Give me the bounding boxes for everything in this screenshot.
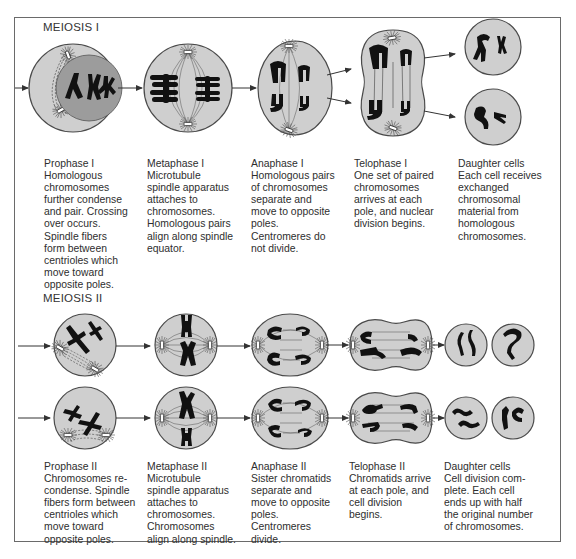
anaphase2-cell-a	[251, 314, 329, 376]
desc-line: Spindle fibers	[44, 231, 148, 243]
desc-line: Chromatids arrive	[349, 473, 453, 485]
desc-line: attaches to	[147, 497, 251, 509]
stage-title: Metaphase I	[147, 158, 251, 170]
anaphase1-cell	[258, 39, 332, 140]
desc-line: Centromeres do	[251, 231, 355, 243]
desc-line: homologous	[458, 218, 562, 230]
desc-line: chromosomes.	[458, 231, 562, 243]
desc-line: equator.	[147, 243, 251, 255]
metaphase1-cell	[144, 44, 232, 132]
telophase2-description: Telophase II Chromatids arrive at each p…	[349, 461, 453, 521]
metaphase2-cell-a	[155, 314, 217, 376]
prophase2-cell-a	[49, 314, 116, 380]
desc-line: chromosomes.	[147, 206, 251, 218]
desc-line: move to opposite	[251, 497, 355, 509]
desc-line: Homologous	[44, 170, 148, 182]
desc-line: Homologous pairs	[251, 170, 355, 182]
desc-line: Chromosomes re-	[44, 473, 148, 485]
metaphase2-description: Metaphase II Microtubule spindle apparat…	[147, 461, 251, 546]
desc-line: Microtubule	[147, 170, 251, 182]
desc-line: spindle apparatus	[147, 182, 251, 194]
desc-line: condense. Spindle	[44, 485, 148, 497]
daughter-cell-1a	[465, 19, 521, 75]
telophase1-cell	[361, 30, 425, 138]
desc-line: and pair. Crossing	[44, 206, 148, 218]
desc-line: fibers form between	[44, 497, 148, 509]
desc-line: arrives at each	[354, 194, 458, 206]
desc-line: chromosomes	[44, 182, 148, 194]
desc-line: pole, and nuclear	[354, 206, 458, 218]
daughter-cells1-description: Daughter cells Each cell receives exchan…	[458, 158, 562, 243]
desc-line: of chromosomes.	[444, 521, 548, 533]
desc-line: separate and	[251, 194, 355, 206]
desc-line: spindle apparatus	[147, 485, 251, 497]
arrow-icon	[424, 54, 455, 58]
desc-line: align along spindle	[147, 231, 251, 243]
desc-line: align along spindle.	[147, 534, 251, 546]
desc-line: plete. Each cell	[444, 485, 548, 497]
desc-line: chromosomes	[354, 182, 458, 194]
desc-line: opposite poles.	[44, 279, 148, 291]
desc-line: of chromosomes	[251, 182, 355, 194]
desc-line: material from	[458, 206, 562, 218]
stage-title: Daughter cells	[444, 461, 548, 473]
desc-line: begins.	[349, 509, 453, 521]
desc-line: further condense	[44, 194, 148, 206]
desc-line: ends up with half	[444, 497, 548, 509]
desc-line: Microtubule	[147, 473, 251, 485]
prophase1-cell	[29, 44, 122, 132]
stage-title: Telophase II	[349, 461, 453, 473]
metaphase2-cell-b	[155, 387, 217, 449]
desc-line: One set of paired	[354, 170, 458, 182]
arrow-icon	[327, 69, 351, 75]
stage-title: Prophase II	[44, 461, 148, 473]
anaphase2-description: Anaphase II Sister chromatids separate a…	[251, 461, 355, 546]
desc-line: poles.	[251, 509, 355, 521]
desc-line: Sister chromatids	[251, 473, 355, 485]
desc-line: not divide.	[251, 243, 355, 255]
desc-line: centrioles which	[44, 255, 148, 267]
prophase2-cell-b	[54, 387, 116, 449]
desc-line: Each cell receives	[458, 170, 562, 182]
daughter-cell-2b	[492, 324, 534, 366]
desc-line: over occurs.	[44, 218, 148, 230]
desc-line: opposite poles.	[44, 534, 148, 546]
desc-line: the original number	[444, 509, 548, 521]
desc-line: move toward	[44, 521, 148, 533]
telophase2-cell-b	[346, 393, 435, 443]
prophase2-description: Prophase II Chromosomes re- condense. Sp…	[44, 461, 148, 546]
desc-line: move to opposite	[251, 206, 355, 218]
anaphase1-description: Anaphase I Homologous pairs of chromosom…	[251, 158, 355, 255]
prophase1-description: Prophase I Homologous chromosomes furthe…	[44, 158, 148, 291]
desc-line: move toward	[44, 267, 148, 279]
telophase2-cell-a	[346, 320, 435, 370]
desc-line: divide.	[251, 534, 355, 546]
telophase1-description: Telophase I One set of paired chromosome…	[354, 158, 458, 231]
meiosis1-row	[15, 19, 521, 145]
arrow-icon	[424, 111, 455, 117]
stage-title: Anaphase I	[251, 158, 355, 170]
desc-line: division begins.	[354, 218, 458, 230]
desc-line: Centromeres	[251, 521, 355, 533]
stage-title: Anaphase II	[251, 461, 355, 473]
daughter-cells2-description: Daughter cells Cell division com- plete.…	[444, 461, 548, 534]
desc-line: form between	[44, 243, 148, 255]
desc-line: Homologous pairs	[147, 218, 251, 230]
desc-line: Cell division com-	[444, 473, 548, 485]
desc-line: at each pole, and	[349, 485, 453, 497]
desc-line: exchanged	[458, 182, 562, 194]
desc-line: cell division	[349, 497, 453, 509]
desc-line: attaches to	[147, 194, 251, 206]
metaphase1-description: Metaphase I Microtubule spindle apparatu…	[147, 158, 251, 255]
stage-title: Prophase I	[44, 158, 148, 170]
stage-title: Daughter cells	[458, 158, 562, 170]
desc-line: Chromosomes	[147, 521, 251, 533]
daughter-cell-1b	[465, 89, 521, 145]
desc-line: poles.	[251, 218, 355, 230]
desc-line: separate and	[251, 485, 355, 497]
desc-line: chromosomal	[458, 194, 562, 206]
desc-line: chromosomes.	[147, 509, 251, 521]
daughter-cell-2c	[445, 397, 487, 439]
stage-title: Telophase I	[354, 158, 458, 170]
daughter-cell-2d	[492, 397, 534, 439]
